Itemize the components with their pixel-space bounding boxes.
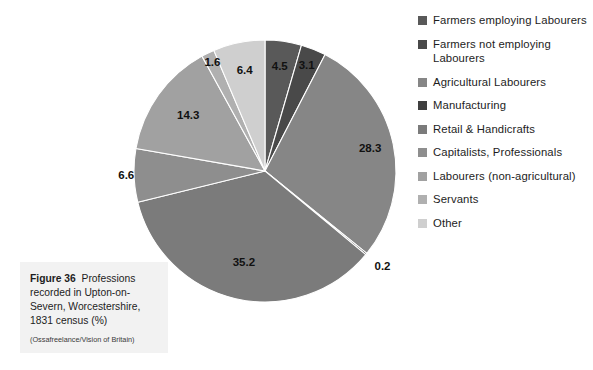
pie-slice-group [134,40,396,302]
legend-swatch-icon [418,125,427,134]
legend-item-label: Farmers not employing Labourers [433,37,590,66]
pie-slice-label: 28.3 [359,142,381,154]
legend-swatch-icon [418,40,427,49]
pie-chart: 4.53.128.30.235.26.614.31.66.4 [128,18,404,318]
legend-swatch-icon [418,101,427,110]
caption-credit: (Ossafreelance/Vision of Britain) [30,335,160,344]
pie-slice-label: 6.4 [237,64,254,76]
legend-swatch-icon [418,148,427,157]
legend-item-label: Manufacturing [433,98,506,113]
legend-item[interactable]: Agricultural Labourers [418,75,590,90]
pie-slice-label: 1.6 [204,56,220,68]
caption-text: Figure 36 Professions recorded in Upton-… [30,272,160,328]
legend-item-label: Retail & Handicrafts [433,122,535,137]
legend-swatch-icon [418,78,427,87]
legend-item-label: Other [433,216,462,231]
legend-item-label: Capitalists, Professionals [433,145,562,160]
legend-swatch-icon [418,195,427,204]
legend-item[interactable]: Labourers (non-agricultural) [418,169,590,184]
legend-item[interactable]: Capitalists, Professionals [418,145,590,160]
legend-swatch-icon [418,16,427,25]
legend-item[interactable]: Farmers employing Labourers [418,13,590,28]
legend-item[interactable]: Manufacturing [418,98,590,113]
chart-legend: Farmers employing LabourersFarmers not e… [418,13,590,239]
pie-slice-label: 4.5 [272,60,289,72]
legend-item-label: Farmers employing Labourers [433,13,587,28]
figure-36: 4.53.128.30.235.26.614.31.66.4 Farmers e… [0,0,593,370]
legend-swatch-icon [418,172,427,181]
legend-item-label: Agricultural Labourers [433,75,546,90]
legend-item[interactable]: Servants [418,192,590,207]
pie-slice-label: 14.3 [177,109,199,121]
legend-swatch-icon [418,219,427,228]
legend-item-label: Labourers (non-agricultural) [433,169,576,184]
pie-slice-label: 6.6 [118,169,134,181]
pie-slice-label: 3.1 [299,59,316,71]
legend-item[interactable]: Farmers not employing Labourers [418,37,590,66]
pie-slice-label: 0.2 [375,260,391,272]
caption-figure-number: Figure 36 [30,273,76,284]
legend-item[interactable]: Retail & Handicrafts [418,122,590,137]
pie-chart-svg: 4.53.128.30.235.26.614.31.66.4 [128,18,404,318]
figure-caption: Figure 36 Professions recorded in Upton-… [20,262,168,353]
legend-item-label: Servants [433,192,479,207]
pie-slice-label: 35.2 [233,256,255,268]
legend-item[interactable]: Other [418,216,590,231]
